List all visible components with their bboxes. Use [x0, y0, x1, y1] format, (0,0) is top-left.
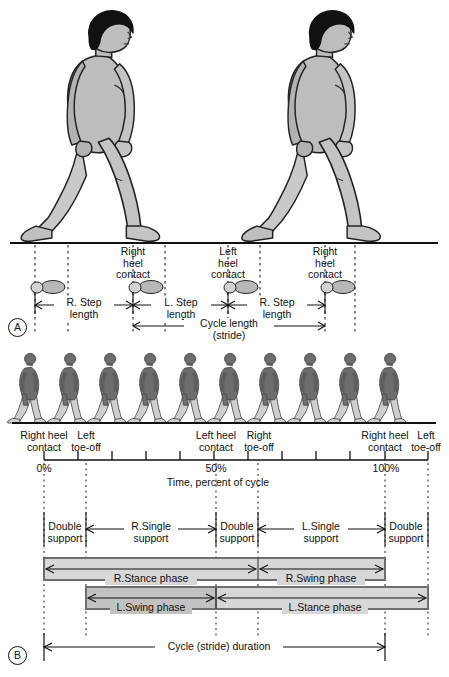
panel-b-graphic — [0, 347, 449, 677]
r-step-length-label-1: R. Step length — [54, 297, 114, 320]
axis-tick-label-0: 0% — [26, 463, 62, 475]
panel-b-event-label-3: Right toe-off — [235, 430, 283, 453]
left-stance-phase-label: L.Stance phase — [282, 602, 368, 614]
footprint-2 — [129, 281, 163, 294]
panel-a-event-label-3: Right heel contact — [295, 246, 355, 281]
panel-b-dashed-guides — [44, 463, 428, 639]
support-label-3: L.Single support — [294, 521, 348, 544]
support-label-0: Double support — [38, 521, 92, 544]
support-label-1: R.Single support — [124, 521, 178, 544]
support-label-4: Double support — [379, 521, 433, 544]
cycle-length-label: Cycle length (stride) — [184, 318, 274, 341]
gait-cycle-figure: Right heel contact Left heel contact Rig… — [0, 0, 449, 677]
walker-sequence — [8, 353, 406, 423]
panel-a-event-label-1: Right heel contact — [103, 246, 163, 281]
right-swing-phase-label: R.Swing phase — [277, 573, 365, 585]
axis-tick-label-100: 100% — [366, 463, 406, 475]
panel-a-letter: A — [8, 318, 27, 337]
footprint-3 — [224, 281, 258, 294]
panel-a-event-label-2: Left heel contact — [198, 246, 258, 281]
gait-figure-2 — [242, 11, 381, 242]
support-label-2: Double support — [210, 521, 264, 544]
cycle-duration-label: Cycle (stride) duration — [155, 641, 283, 653]
right-stance-phase-label: R.Stance phase — [105, 573, 197, 585]
gait-figure-1 — [21, 11, 160, 242]
footprint-1 — [31, 281, 65, 294]
panel-b-event-label-5: Left toe-off — [404, 430, 448, 453]
panel-b-letter: B — [8, 646, 27, 665]
panel-b-event-label-1: Left toe-off — [61, 430, 111, 453]
footprint-4 — [321, 281, 355, 294]
panel-a-graphic — [0, 0, 449, 345]
axis-title: Time, percent of cycle — [148, 477, 288, 489]
left-swing-phase-label: L.Swing phase — [110, 602, 192, 614]
axis-tick-label-50: 50% — [198, 463, 234, 475]
